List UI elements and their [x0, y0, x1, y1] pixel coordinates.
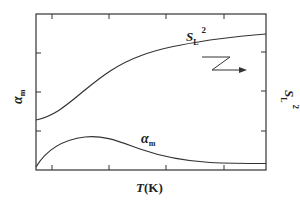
x-axis-label: T(K) [136, 180, 163, 195]
right-axis-arrow-icon [202, 57, 247, 73]
top-axis-ticks [52, 14, 224, 19]
curve-label-alpha-m: αm [141, 131, 156, 148]
x-axis-ticks [52, 165, 224, 170]
y-axis-left-label: αm [10, 89, 27, 104]
series-SL2-line [36, 34, 266, 120]
chart: SL2 αm αm SL2 T(K) [0, 0, 300, 202]
right-axis-ticks [261, 52, 266, 131]
curve-label-SL2: SL2 [186, 25, 207, 47]
y-axis-right-label: SL2 [279, 90, 300, 110]
